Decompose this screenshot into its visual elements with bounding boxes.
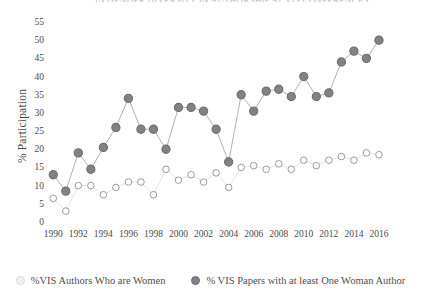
data-point[interactable] bbox=[238, 164, 245, 171]
data-point[interactable] bbox=[100, 191, 107, 198]
chart-title-clipped: IN GENDER DIVERSITY IN AUTHORSHIP AT VIS… bbox=[95, 0, 415, 2]
plot-area bbox=[0, 0, 421, 250]
data-point[interactable] bbox=[275, 161, 282, 168]
data-point[interactable] bbox=[351, 157, 358, 164]
data-point[interactable] bbox=[250, 107, 258, 115]
data-point[interactable] bbox=[213, 170, 220, 177]
y-tick-label: 20 bbox=[20, 144, 44, 154]
data-point[interactable] bbox=[62, 208, 69, 215]
data-point[interactable] bbox=[113, 184, 120, 191]
y-tick-label: 0 bbox=[20, 217, 44, 227]
data-point[interactable] bbox=[350, 47, 358, 55]
data-point[interactable] bbox=[362, 54, 370, 62]
data-point[interactable] bbox=[99, 143, 107, 151]
data-point[interactable] bbox=[138, 179, 145, 186]
data-point[interactable] bbox=[50, 195, 57, 202]
data-point[interactable] bbox=[200, 179, 207, 186]
data-point[interactable] bbox=[275, 85, 283, 93]
data-point[interactable] bbox=[174, 103, 182, 111]
y-tick-label: 50 bbox=[20, 35, 44, 45]
data-point[interactable] bbox=[301, 157, 308, 164]
y-tick-label: 30 bbox=[20, 108, 44, 118]
data-point[interactable] bbox=[288, 166, 295, 173]
data-point[interactable] bbox=[262, 87, 270, 95]
series-open-circles bbox=[50, 150, 382, 215]
data-point[interactable] bbox=[326, 157, 333, 164]
data-point[interactable] bbox=[375, 36, 383, 44]
data-point[interactable] bbox=[313, 162, 320, 169]
chart-legend: %VIS Authors Who are Women % VIS Papers … bbox=[0, 275, 421, 286]
data-point[interactable] bbox=[225, 158, 233, 166]
data-point[interactable] bbox=[125, 179, 132, 186]
data-point[interactable] bbox=[376, 151, 383, 158]
data-point[interactable] bbox=[162, 145, 170, 153]
y-tick-label: 35 bbox=[20, 90, 44, 100]
chart-container: IN GENDER DIVERSITY IN AUTHORSHIP AT VIS… bbox=[0, 0, 421, 304]
data-point[interactable] bbox=[263, 166, 270, 173]
legend-label-filled: % VIS Papers with at least One Woman Aut… bbox=[206, 275, 405, 286]
data-point[interactable] bbox=[337, 58, 345, 66]
y-tick-label: 25 bbox=[20, 126, 44, 136]
data-point[interactable] bbox=[150, 191, 157, 198]
data-point[interactable] bbox=[124, 94, 132, 102]
y-tick-label: 10 bbox=[20, 181, 44, 191]
data-point[interactable] bbox=[300, 72, 308, 80]
data-point[interactable] bbox=[199, 107, 207, 115]
data-point[interactable] bbox=[88, 182, 95, 189]
data-point[interactable] bbox=[149, 125, 157, 133]
y-tick-label: 55 bbox=[20, 17, 44, 27]
series-filled-circles bbox=[49, 36, 383, 195]
legend-entry-open[interactable]: %VIS Authors Who are Women bbox=[16, 275, 166, 286]
x-tick-label: 2016 bbox=[362, 229, 396, 239]
data-point[interactable] bbox=[338, 153, 345, 160]
data-point[interactable] bbox=[287, 92, 295, 100]
data-point[interactable] bbox=[237, 91, 245, 99]
data-point[interactable] bbox=[363, 150, 370, 157]
open-circle-icon bbox=[16, 276, 25, 285]
data-point[interactable] bbox=[137, 125, 145, 133]
data-point[interactable] bbox=[187, 103, 195, 111]
legend-label-open: %VIS Authors Who are Women bbox=[31, 275, 166, 286]
y-tick-label: 5 bbox=[20, 199, 44, 209]
data-point[interactable] bbox=[212, 125, 220, 133]
data-point[interactable] bbox=[163, 166, 170, 173]
data-point[interactable] bbox=[250, 162, 257, 169]
data-point[interactable] bbox=[62, 187, 70, 195]
y-tick-label: 40 bbox=[20, 72, 44, 82]
series-line bbox=[53, 40, 379, 191]
legend-entry-filled[interactable]: % VIS Papers with at least One Woman Aut… bbox=[191, 275, 405, 286]
data-point[interactable] bbox=[188, 171, 195, 178]
y-tick-label: 15 bbox=[20, 162, 44, 172]
data-point[interactable] bbox=[49, 171, 57, 179]
y-tick-label: 45 bbox=[20, 53, 44, 63]
data-point[interactable] bbox=[74, 149, 82, 157]
filled-circle-icon bbox=[191, 276, 200, 285]
data-point[interactable] bbox=[112, 123, 120, 131]
data-point[interactable] bbox=[75, 182, 82, 189]
data-point[interactable] bbox=[312, 92, 320, 100]
data-point[interactable] bbox=[175, 177, 182, 184]
data-point[interactable] bbox=[225, 184, 232, 191]
series-line bbox=[53, 153, 379, 211]
data-point[interactable] bbox=[87, 165, 95, 173]
data-point[interactable] bbox=[325, 89, 333, 97]
